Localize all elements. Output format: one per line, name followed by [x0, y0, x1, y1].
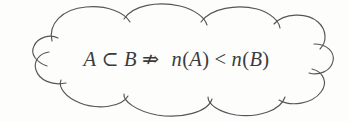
cardinality-arg-right: B [249, 48, 262, 70]
cardinality-fn-left: n [171, 48, 182, 70]
not-implies-symbol: ⇏ [142, 48, 160, 70]
less-than-symbol: < [215, 48, 227, 70]
math-expression: A⊂B⇏n(A)<n(B) [83, 49, 269, 70]
close-paren-left: ) [202, 48, 209, 70]
subset-symbol: ⊂ [101, 48, 119, 70]
set-b: B [124, 48, 137, 70]
formula-container: A⊂B⇏n(A)<n(B) [0, 0, 349, 122]
cardinality-arg-left: A [189, 48, 202, 70]
cardinality-fn-right: n [232, 48, 243, 70]
close-paren-right: ) [262, 48, 269, 70]
set-a: A [83, 48, 96, 70]
figure-root: A⊂B⇏n(A)<n(B) [0, 0, 349, 122]
